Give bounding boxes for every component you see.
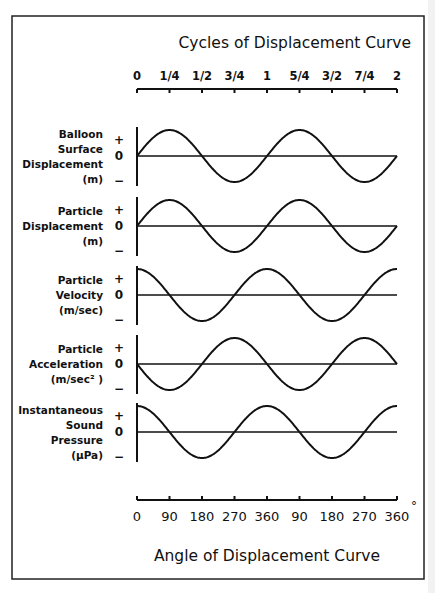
y-plus-label: +	[114, 133, 124, 147]
y-minus-label: −	[114, 174, 124, 188]
y-plus-label: +	[114, 272, 124, 286]
top-axis-tick-label: 3/2	[322, 69, 342, 83]
series-label-line: Pressure	[51, 434, 103, 446]
bottom-axis-tick-label: 360	[385, 509, 410, 524]
top-axis: 01/41/23/415/43/27/42	[133, 69, 401, 93]
y-zero-label: 0	[115, 357, 123, 371]
y-minus-label: −	[114, 244, 124, 258]
series-label-line: (m/sec)	[59, 304, 103, 316]
series-label-line: Particle	[58, 343, 103, 355]
y-plus-label: +	[114, 203, 124, 217]
top-axis-tick-label: 0	[133, 69, 141, 83]
series-label-line: Particle	[58, 205, 103, 217]
series-label-line: (μPa)	[71, 449, 103, 461]
series-label-line: (m/sec² )	[51, 373, 103, 385]
y-zero-label: 0	[115, 149, 123, 163]
bottom-axis-tick-label: 90	[161, 509, 178, 524]
series-label-line: Particle	[58, 274, 103, 286]
y-minus-label: −	[114, 313, 124, 327]
top-axis-tick-label: 3/4	[224, 69, 244, 83]
top-axis-title: Cycles of Displacement Curve	[179, 34, 411, 52]
bottom-axis-tick-label: 270	[352, 509, 377, 524]
series-label-line: Displacement	[22, 158, 103, 170]
top-axis-tick-label: 7/4	[354, 69, 374, 83]
top-axis-tick-label: 5/4	[289, 69, 309, 83]
bottom-axis-tick-label: 360	[255, 509, 280, 524]
series-label-line: Velocity	[56, 289, 103, 301]
degree-symbol: °	[411, 499, 417, 513]
y-zero-label: 0	[115, 219, 123, 233]
bottom-axis-tick-label: 180	[320, 509, 345, 524]
bottom-axis-title: Angle of Displacement Curve	[154, 547, 380, 565]
series-label-line: Sound	[66, 419, 103, 431]
y-minus-label: −	[114, 450, 124, 464]
series-label-line: (m)	[82, 173, 103, 185]
series-label-line: Surface	[58, 143, 103, 155]
series-label-line: Balloon	[59, 128, 103, 140]
top-axis-tick-label: 1	[263, 69, 271, 83]
bottom-axis-tick-label: 270	[222, 509, 247, 524]
series-label-line: Displacement	[22, 220, 103, 232]
y-zero-label: 0	[115, 425, 123, 439]
bottom-axis: 09018027036090180270360°	[133, 496, 417, 524]
series-label-line: Acceleration	[29, 358, 103, 370]
series-label-line: Instantaneous	[18, 404, 103, 416]
top-axis-tick-label: 1/4	[159, 69, 179, 83]
bottom-axis-tick-label: 180	[190, 509, 215, 524]
top-axis-tick-label: 1/2	[192, 69, 212, 83]
top-axis-tick-label: 2	[393, 69, 401, 83]
y-minus-label: −	[114, 382, 124, 396]
y-plus-label: +	[114, 409, 124, 423]
series-label-line: (m)	[82, 235, 103, 247]
y-plus-label: +	[114, 341, 124, 355]
bottom-axis-tick-label: 0	[133, 509, 141, 524]
bottom-axis-tick-label: 90	[291, 509, 308, 524]
y-zero-label: 0	[115, 288, 123, 302]
displacement-curves-figure: Cycles of Displacement Curve 01/41/23/41…	[0, 0, 435, 593]
